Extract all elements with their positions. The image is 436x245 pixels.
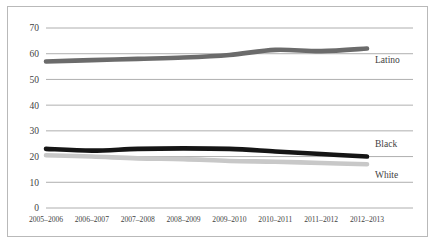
series-line-latino bbox=[46, 49, 367, 62]
xtick-label-7: 2012–2013 bbox=[350, 215, 384, 224]
chart-canvas: 0102030405060702005–20062006–20072007–20… bbox=[8, 7, 427, 236]
xtick-label-3: 2008–2009 bbox=[166, 215, 200, 224]
line-chart: 0102030405060702005–20062006–20072007–20… bbox=[8, 7, 427, 236]
ytick-label-30: 30 bbox=[30, 126, 40, 136]
xtick-label-2: 2007–2008 bbox=[121, 215, 155, 224]
xtick-label-5: 2010–2011 bbox=[258, 215, 292, 224]
ytick-label-40: 40 bbox=[30, 101, 40, 111]
series-label-black: Black bbox=[375, 139, 397, 149]
xtick-label-0: 2005–2006 bbox=[29, 215, 63, 224]
series-label-latino: Latino bbox=[375, 55, 400, 65]
ytick-label-0: 0 bbox=[34, 203, 39, 213]
xtick-label-1: 2006–2007 bbox=[75, 215, 109, 224]
ytick-label-70: 70 bbox=[30, 23, 40, 33]
xtick-label-6: 2011–2012 bbox=[304, 215, 338, 224]
xtick-label-4: 2009–2010 bbox=[212, 215, 246, 224]
ytick-label-50: 50 bbox=[30, 75, 40, 85]
chart-frame: 0102030405060702005–20062006–20072007–20… bbox=[7, 6, 428, 237]
ytick-label-60: 60 bbox=[30, 49, 40, 59]
series-label-white: White bbox=[375, 170, 398, 180]
ytick-label-10: 10 bbox=[30, 178, 40, 188]
ytick-label-20: 20 bbox=[30, 152, 40, 162]
